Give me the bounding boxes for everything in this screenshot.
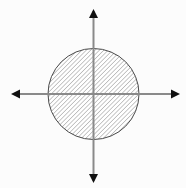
figure-container: Hatched disk centered at the origin of a…: [0, 0, 186, 188]
coordinate-plane-figure: Hatched disk centered at the origin of a…: [0, 0, 186, 188]
